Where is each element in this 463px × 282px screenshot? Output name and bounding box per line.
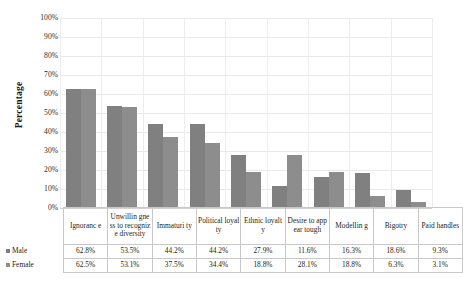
table-value-cell: 37.5% xyxy=(152,259,196,273)
legend-swatch-icon xyxy=(6,249,10,253)
table-category-header: Unwillin gness to recognize diversity xyxy=(108,208,152,245)
table-row: Female62.5%53.1%37.5%34.4%18.8%28.1%18.8… xyxy=(4,259,462,273)
y-axis-tick-label: 20% xyxy=(28,166,58,174)
table-value-cell: 18.6% xyxy=(374,245,418,259)
bar-male[interactable] xyxy=(355,173,370,208)
bar-group xyxy=(267,18,308,208)
y-axis-tick-label: 70% xyxy=(28,71,58,79)
table-value-cell: 11.6% xyxy=(285,245,329,259)
table-value-cell: 62.8% xyxy=(64,245,108,259)
y-axis-tick-label: 80% xyxy=(28,52,58,60)
bar-group xyxy=(60,18,101,208)
bar-group xyxy=(391,18,432,208)
bar-male[interactable] xyxy=(190,124,205,208)
table-value-cell: 44.2% xyxy=(196,245,240,259)
bar-male[interactable] xyxy=(148,124,163,208)
legend-entry-female[interactable]: Female xyxy=(4,259,64,273)
legend-swatch-icon xyxy=(6,263,10,267)
bar-male[interactable] xyxy=(272,186,287,208)
bar-male[interactable] xyxy=(107,106,122,208)
bar-group xyxy=(184,18,225,208)
legend-label: Male xyxy=(12,246,27,255)
legend-label: Female xyxy=(12,260,34,269)
table-category-header: Paid handles xyxy=(418,208,462,245)
bar-group xyxy=(349,18,390,208)
table-value-cell: 9.3% xyxy=(418,245,462,259)
column-separator xyxy=(432,18,433,208)
table-category-header: Desire to appear tough xyxy=(285,208,329,245)
plot-area-wrapper: 100%90%80%70%60%50%40%30%20%10%0% xyxy=(28,18,432,208)
y-axis-tick-label: 10% xyxy=(28,185,58,193)
y-axis-tick-label: 40% xyxy=(28,128,58,136)
y-axis-tick-label: 50% xyxy=(28,109,58,117)
y-axis-tick-label: 90% xyxy=(28,33,58,41)
table-category-header: Immaturi ty xyxy=(152,208,196,245)
table-value-cell: 27.9% xyxy=(241,245,285,259)
bar-group xyxy=(308,18,349,208)
table-row: Male62.8%53.5%44.2%44.2%27.9%11.6%16.3%1… xyxy=(4,245,462,259)
table-category-header: Political loyalty xyxy=(196,208,240,245)
table-corner-cell xyxy=(4,208,64,245)
y-axis-title-label: Percentage xyxy=(14,82,24,129)
bar-female[interactable] xyxy=(205,143,220,208)
bar-female[interactable] xyxy=(81,89,96,208)
table-value-cell: 6.3% xyxy=(374,259,418,273)
bar-female[interactable] xyxy=(163,137,178,208)
bar-female[interactable] xyxy=(246,172,261,208)
table-category-header: Ethnic loyalty xyxy=(241,208,285,245)
bar-female[interactable] xyxy=(122,107,137,208)
table-category-header: Modellin g xyxy=(329,208,373,245)
bar-group xyxy=(101,18,142,208)
bar-female[interactable] xyxy=(287,155,302,208)
table-value-cell: 53.5% xyxy=(108,245,152,259)
bar-male[interactable] xyxy=(231,155,246,208)
bar-group xyxy=(143,18,184,208)
table-value-cell: 18.8% xyxy=(241,259,285,273)
bars-plot-area xyxy=(60,18,432,208)
table-value-cell: 16.3% xyxy=(329,245,373,259)
table-value-cell: 18.8% xyxy=(329,259,373,273)
table-value-cell: 3.1% xyxy=(418,259,462,273)
bar-male[interactable] xyxy=(66,89,81,208)
table-value-cell: 44.2% xyxy=(152,245,196,259)
y-axis-title: Percentage xyxy=(9,60,29,150)
legend-entry-male[interactable]: Male xyxy=(4,245,64,259)
table-value-cell: 53.1% xyxy=(108,259,152,273)
bar-group xyxy=(225,18,266,208)
y-axis-tick-label: 60% xyxy=(28,90,58,98)
table-category-header: Ignoranc e xyxy=(64,208,108,245)
bar-male[interactable] xyxy=(396,190,411,208)
table-value-cell: 28.1% xyxy=(285,259,329,273)
table-value-cell: 34.4% xyxy=(196,259,240,273)
table-value-cell: 62.5% xyxy=(64,259,108,273)
y-axis-tick-label: 30% xyxy=(28,147,58,155)
bar-female[interactable] xyxy=(329,172,344,208)
y-axis-tick-label: 100% xyxy=(28,14,58,22)
table-category-header: Bigotry xyxy=(374,208,418,245)
data-table: Ignoranc eUnwillin gness to recognize di… xyxy=(4,207,463,273)
table-header-row: Ignoranc eUnwillin gness to recognize di… xyxy=(4,208,462,245)
bar-male[interactable] xyxy=(314,177,329,208)
